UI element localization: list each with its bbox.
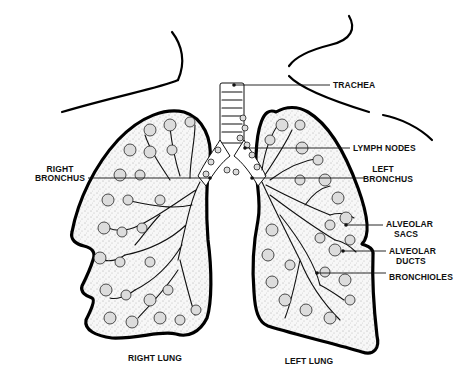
label-alveolar-ducts-1: ALVEOLAR bbox=[389, 246, 436, 256]
label-left-bronchus-2: BRONCHUS bbox=[363, 174, 413, 184]
label-right-bronchus-2: BRONCHUS bbox=[35, 173, 85, 183]
label-alveolar-ducts-2: DUCTS bbox=[396, 256, 426, 266]
label-right-lung: RIGHT LUNG bbox=[128, 353, 182, 363]
label-lymph-nodes: LYMPH NODES bbox=[353, 143, 416, 153]
label-trachea: TRACHEA bbox=[333, 80, 375, 90]
label-bronchioles: BRONCHIOLES bbox=[389, 272, 453, 282]
label-left-bronchus-1: LEFT bbox=[372, 164, 394, 174]
label-left-lung: LEFT LUNG bbox=[285, 356, 334, 366]
lung-anatomy-diagram: TRACHEA LYMPH NODES LEFT BRONCHUS RIGHT … bbox=[0, 0, 463, 381]
body-outline bbox=[62, 16, 432, 140]
label-alveolar-sacs-1: ALVEOLAR bbox=[386, 219, 433, 229]
label-alveolar-sacs-2: SACS bbox=[394, 229, 418, 239]
